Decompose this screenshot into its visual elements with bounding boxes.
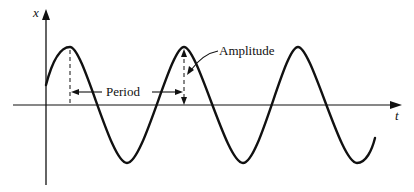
y-axis-arrow-icon	[42, 9, 50, 20]
period-left-arrow-icon	[71, 89, 79, 95]
y-axis-label: x	[32, 5, 39, 20]
sine-wave-diagram: x t Period Amplitude	[0, 0, 414, 192]
amplitude-down-arrow-icon	[181, 97, 187, 105]
amplitude-label: Amplitude	[219, 43, 275, 58]
y-axis	[42, 9, 50, 185]
period-label: Period	[106, 84, 140, 99]
x-axis	[13, 101, 402, 109]
x-axis-label: t	[395, 108, 399, 123]
amplitude-up-arrow-icon	[181, 49, 187, 57]
period-right-arrow-icon	[175, 89, 183, 95]
